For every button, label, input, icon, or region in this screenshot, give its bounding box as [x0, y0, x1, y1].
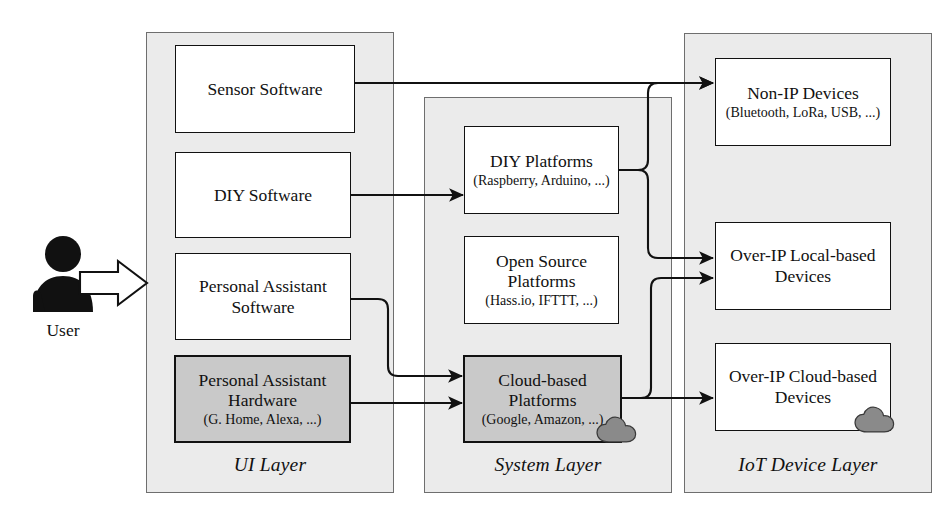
- node-title: Personal AssistantSoftware: [199, 276, 327, 317]
- layer-label-ui: UI Layer: [147, 454, 393, 476]
- node-diy-platforms[interactable]: DIY Platforms (Raspberry, Arduino, ...): [464, 126, 619, 214]
- node-subtitle: (Hass.io, IFTTT, ...): [485, 293, 598, 310]
- node-cloud-based-platforms[interactable]: Cloud-basedPlatforms (Google, Amazon, ..…: [463, 355, 622, 443]
- layer-label-system: System Layer: [425, 454, 671, 476]
- node-subtitle: (Google, Amazon, ...): [482, 412, 604, 429]
- node-title: Cloud-basedPlatforms: [498, 370, 586, 411]
- node-diy-software[interactable]: DIY Software: [175, 152, 351, 238]
- node-personal-assistant-software[interactable]: Personal AssistantSoftware: [175, 253, 351, 340]
- node-subtitle: (Bluetooth, LoRa, USB, ...): [726, 105, 880, 122]
- node-title: Open SourcePlatforms: [496, 251, 587, 292]
- user-label: User: [20, 320, 106, 341]
- node-personal-assistant-hardware[interactable]: Personal AssistantHardware (G. Home, Ale…: [174, 355, 351, 443]
- node-sensor-software[interactable]: Sensor Software: [175, 45, 355, 133]
- diagram-canvas: UI Layer System Layer IoT Device Layer: [0, 0, 950, 524]
- node-over-ip-cloud-devices[interactable]: Over-IP Cloud-basedDevices: [715, 343, 891, 431]
- node-title: DIY Software: [214, 185, 312, 206]
- node-title: Over-IP Local-basedDevices: [730, 245, 875, 286]
- layer-label-iot: IoT Device Layer: [685, 454, 931, 476]
- node-open-source-platforms[interactable]: Open SourcePlatforms (Hass.io, IFTTT, ..…: [464, 236, 619, 324]
- node-over-ip-local-devices[interactable]: Over-IP Local-basedDevices: [715, 222, 891, 310]
- node-title: Sensor Software: [207, 79, 322, 100]
- node-subtitle: (G. Home, Alexa, ...): [204, 412, 322, 429]
- node-title: DIY Platforms: [490, 151, 593, 172]
- node-title: Personal AssistantHardware: [199, 370, 327, 411]
- node-title: Non-IP Devices: [747, 83, 859, 104]
- node-non-ip-devices[interactable]: Non-IP Devices (Bluetooth, LoRa, USB, ..…: [715, 58, 891, 146]
- node-subtitle: (Raspberry, Arduino, ...): [473, 173, 609, 190]
- node-title: Over-IP Cloud-basedDevices: [729, 366, 877, 407]
